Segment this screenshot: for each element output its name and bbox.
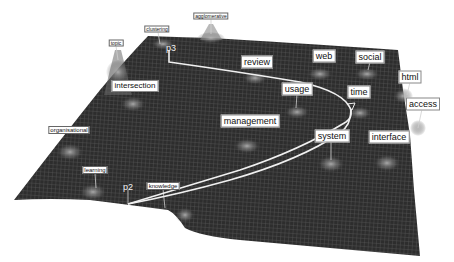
label-web: web — [313, 50, 336, 63]
label-review: review — [241, 56, 273, 69]
label-agglomerative: agglomerative — [193, 13, 228, 20]
label-social: social — [355, 51, 384, 64]
point-p2: p2 — [123, 183, 133, 192]
label-management: management — [221, 115, 280, 128]
label-html: html — [398, 71, 421, 84]
label-learning: learning — [82, 166, 107, 174]
label-clustering: clustering — [144, 26, 169, 33]
label-intersection: intersection — [112, 80, 159, 92]
label-organisational: organisational — [48, 126, 89, 134]
label-interface: interface — [369, 131, 410, 144]
label-access: access — [406, 98, 440, 111]
label-usage: usage — [282, 83, 313, 96]
label-system: system — [315, 130, 350, 143]
terrain-visualization: topic clustering agglomerative intersect… — [0, 0, 454, 262]
point-p3: p3 — [166, 44, 176, 53]
label-time: time — [347, 86, 370, 99]
label-knowledge: knowledge — [147, 182, 180, 190]
label-topic: topic — [109, 40, 124, 47]
